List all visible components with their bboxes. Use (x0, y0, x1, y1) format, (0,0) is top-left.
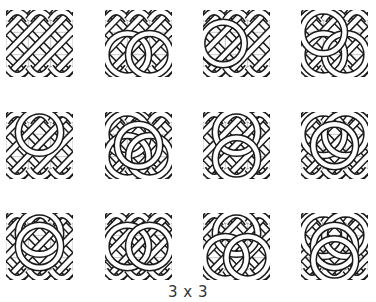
knot-tile-r3-c3 (203, 213, 270, 280)
figure-caption: 3 x 3 (0, 283, 376, 301)
knot-tile-r1-c2 (105, 10, 172, 77)
knot-tile-r1-c1 (6, 10, 73, 77)
knot-tile-r2-c1 (6, 112, 73, 179)
knot-tile-r3-c1 (6, 213, 73, 280)
knot-tile-r3-c2 (105, 213, 172, 280)
knot-tile-r2-c2 (105, 112, 172, 179)
knot-tile-r1-c3 (203, 10, 270, 77)
knot-tile-r2-c3 (203, 112, 270, 179)
knot-tile-r2-c4 (301, 112, 368, 179)
knot-tile-r3-c4 (301, 213, 368, 280)
knot-tile-r1-c4 (301, 10, 368, 77)
